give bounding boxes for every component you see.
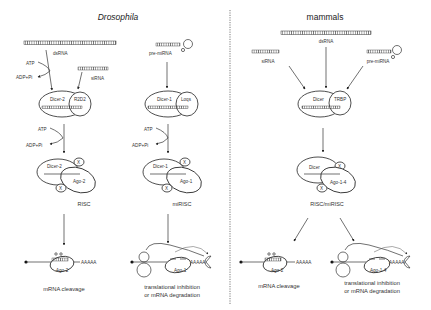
mammal-x-label-1: X xyxy=(338,164,341,169)
r2d2-label: R2D2 xyxy=(74,97,86,102)
panel-title-drosophila: Drosophila xyxy=(98,12,139,22)
trbp-label: TRBP xyxy=(334,97,346,102)
polya-tail-4: AAAAA xyxy=(389,260,405,265)
outcome-mrna-degradation-2: or mRNA degradation xyxy=(344,288,400,294)
risc-x-label-2: X xyxy=(59,186,62,191)
risc-mirisc-complex xyxy=(297,157,359,197)
rnai-pathway-diagram: Drosophila dsRNA ATP ADP+Pi siRNA Dicer-… xyxy=(0,0,431,310)
target-ago14-label: Ago-1-4 xyxy=(370,268,387,273)
risc-dicer2-label: Dicer-2 xyxy=(47,164,62,169)
mirisc-label: miRISC xyxy=(173,201,192,207)
sirna-drosophila xyxy=(78,67,108,70)
dicer1-loqs-complex xyxy=(145,91,198,117)
pre-mirna-label: pre-miRNA xyxy=(149,51,173,56)
atp-label-2: ATP xyxy=(38,127,47,132)
dicer2-label: Dicer-2 xyxy=(50,97,65,102)
atp-label-3: ATP xyxy=(144,127,153,132)
dsrna-drosophila xyxy=(24,41,116,45)
polya-tail-3: AAAAA xyxy=(296,260,312,265)
target-ago2-label-1: Ago-2 xyxy=(56,268,69,273)
dicer1-label: Dicer-1 xyxy=(157,97,172,102)
arrow-dsrna-to-dicer2 xyxy=(46,50,52,90)
mammal-ago14-label: Ago-1-4 xyxy=(330,180,347,185)
dicer2-r2d2-complex xyxy=(39,91,91,117)
atp-hydrolysis-arrow-3 xyxy=(156,128,168,144)
mrna-cleavage-target xyxy=(24,253,80,274)
arrow-to-repression-mammals xyxy=(340,218,354,241)
pre-mirna-drosophila xyxy=(156,40,193,52)
outcome-mrna-cleavage-2: mRNA cleavage xyxy=(258,283,300,289)
arrow-premirna-to-dicer xyxy=(347,66,363,89)
dsrna-label: dsRNA xyxy=(53,51,68,56)
risc-label: RISC xyxy=(77,201,90,207)
loqs-label: Loqs xyxy=(181,97,192,102)
pre-mirna-label-mammals: pre-miRNA xyxy=(367,59,391,64)
arrow-to-cleavage-mammals xyxy=(294,218,308,241)
adp-label-2: ADP+Pi xyxy=(26,143,42,148)
outcome-translational-inhibition-2: translational inhibition xyxy=(344,280,400,286)
dsrna-mammals xyxy=(281,31,371,35)
mirisc-dicer1-label: Dicer-1 xyxy=(153,164,168,169)
outcome-mrna-cleavage-1: mRNA cleavage xyxy=(43,286,85,292)
risc-mirisc-label: RISC/miRISC xyxy=(310,201,344,207)
panel-title-mammals: mammals xyxy=(307,12,344,22)
outcome-mrna-degradation-1: or mRNA degradation xyxy=(144,292,200,298)
mirisc-x-label-1: X xyxy=(183,160,186,165)
dicer-label: Dicer xyxy=(313,97,324,102)
mirisc-ago1-label: Ago-1 xyxy=(180,179,193,184)
risc-x-label-1: X xyxy=(77,160,80,165)
sirna-label-mammals: siRNA xyxy=(261,59,275,64)
sirna-label: siRNA xyxy=(91,76,105,81)
polya-tail-2: AAAAA xyxy=(190,260,206,265)
atp-hydrolysis-arrow-2 xyxy=(50,128,63,144)
atp-label-1: ATP xyxy=(26,61,35,66)
outcome-translational-inhibition-1: translational inhibition xyxy=(144,284,200,290)
arrow-sirna-to-dicer xyxy=(289,66,305,89)
mammal-x-label-2: X xyxy=(320,186,323,191)
dsrna-label-mammals: dsRNA xyxy=(319,39,334,44)
adp-label-3: ADP+Pi xyxy=(132,143,148,148)
pre-mirna-mammals xyxy=(367,46,402,59)
sirna-mammals xyxy=(252,50,279,53)
mrna-cleavage-target-mammals xyxy=(239,253,295,274)
target-ago1-label: Ago-1 xyxy=(174,268,187,273)
polya-tail-1: AAAAA xyxy=(81,260,97,265)
dicer-trbp-complex xyxy=(298,91,351,117)
target-ago2-label-2: Ago-2 xyxy=(271,268,284,273)
adp-label-1: ADP+Pi xyxy=(16,75,32,80)
mirisc-x-label-2: X xyxy=(165,186,168,191)
arrow-sirna-to-dicer2 xyxy=(78,72,82,89)
risc-ago2-label: Ago-2 xyxy=(73,179,86,184)
mammal-dicer-label: Dicer xyxy=(309,165,320,170)
